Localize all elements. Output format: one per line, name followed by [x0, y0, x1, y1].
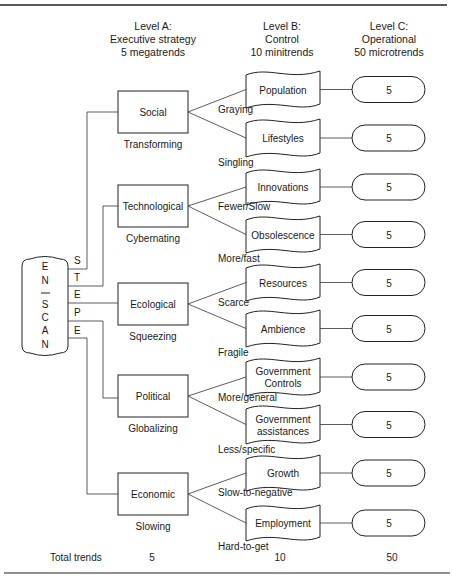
minitrend-label: Fragile	[218, 347, 249, 358]
minitrend-label: More/general	[218, 392, 277, 403]
microtrend-count: 5	[386, 518, 392, 529]
svg-text:A: A	[42, 325, 49, 336]
megatrend-trend: Slowing	[135, 521, 170, 532]
svg-text:E: E	[42, 261, 49, 272]
header-level-b: Level B: Control 10 minitrends	[250, 20, 313, 58]
fan-line	[188, 494, 246, 523]
svg-text:E: E	[74, 325, 81, 336]
megatrend-name: Technological	[123, 201, 184, 212]
svg-text:E: E	[74, 289, 81, 300]
microtrend-count: 5	[386, 468, 392, 479]
svg-text:S: S	[42, 299, 49, 310]
microtrend-count: 5	[386, 420, 392, 431]
svg-text:10: 10	[274, 552, 286, 563]
header-level-a: Level A: Executive strategy 5 megatrends	[110, 20, 197, 58]
svg-text:P: P	[74, 307, 81, 318]
megatrend-trend: Globalizing	[128, 423, 177, 434]
enscan-connectors	[68, 112, 118, 494]
minitrend-name: Innovations	[257, 182, 308, 193]
minitrend-label: More/fast	[218, 253, 260, 264]
megatrend-name: Economic	[131, 489, 175, 500]
svg-text:S: S	[74, 255, 81, 266]
megatrend-ecological: EcologicalSqueezingResourcesScarce5Ambie…	[118, 264, 425, 358]
enscan-node: E N S C A N	[22, 257, 68, 356]
fan-line	[188, 112, 246, 138]
megatrend-name: Social	[139, 107, 166, 118]
minitrend-name: Resources	[259, 278, 307, 289]
minitrend-name: Employment	[255, 518, 311, 529]
svg-text:C: C	[41, 312, 48, 323]
svg-text:Total trends: Total trends	[50, 552, 102, 563]
steep-labels: S T E P E	[74, 255, 81, 336]
microtrend-count: 5	[386, 230, 392, 241]
header-level-c: Level C: Operational 50 microtrends	[354, 20, 423, 58]
totals-row: Total trends 5 10 50	[50, 552, 398, 563]
megatrend-trend: Transforming	[124, 139, 183, 150]
connector-economic	[68, 338, 118, 494]
megatrend-technological: TechnologicalCybernatingInnovationsFewer…	[118, 169, 425, 264]
minitrend-label: Slow-to-negative	[218, 487, 293, 498]
megatrend-social: SocialTransformingPopulationGraying5Life…	[118, 71, 425, 168]
minitrend-label: Fewer/Slow	[218, 201, 271, 212]
minitrend-name: Lifestyles	[262, 133, 304, 144]
microtrend-count: 5	[386, 182, 392, 193]
svg-text:5: 5	[149, 552, 155, 563]
minitrend-name: Government	[255, 366, 310, 377]
enscan-diagram: Level A: Executive strategy 5 megatrends…	[0, 0, 452, 585]
minitrend-name: Population	[259, 85, 306, 96]
microtrend-count: 5	[386, 85, 392, 96]
svg-text:T: T	[74, 272, 80, 283]
minitrend-name: Obsolescence	[251, 230, 315, 241]
megatrend-name: Political	[136, 391, 170, 402]
minitrend-box	[246, 405, 320, 444]
minitrend-name: Government	[255, 414, 310, 425]
minitrend-label: Scarce	[218, 297, 250, 308]
svg-text:Operational: Operational	[362, 33, 416, 45]
svg-text:5 megatrends: 5 megatrends	[121, 46, 185, 58]
svg-text:N: N	[41, 275, 48, 286]
megatrend-political: PoliticalGlobalizingGovernmentControlsMo…	[118, 358, 425, 455]
minitrend-name-line2: Controls	[264, 378, 301, 389]
minitrend-label: Less/specific	[218, 444, 275, 455]
connector-social	[68, 112, 118, 269]
svg-text:50: 50	[386, 552, 398, 563]
svg-text:N: N	[41, 339, 48, 350]
minitrend-label: Graying	[218, 104, 253, 115]
microtrend-count: 5	[386, 133, 392, 144]
svg-text:Executive strategy: Executive strategy	[110, 33, 197, 45]
minitrend-name-line2: assistances	[257, 426, 309, 437]
svg-text:10 minitrends: 10 minitrends	[250, 46, 313, 58]
minitrend-box	[246, 358, 320, 396]
megatrend-name: Ecological	[130, 299, 176, 310]
minitrend-name: Growth	[267, 468, 299, 479]
megatrend-trend: Squeezing	[129, 331, 176, 342]
minitrend-label: Singling	[218, 157, 254, 168]
megatrend-economic: EconomicSlowingGrowthSlow-to-negative5Em…	[118, 455, 425, 552]
megatrend-trend: Cybernating	[126, 233, 180, 244]
microtrend-count: 5	[386, 324, 392, 335]
minitrend-label: Hard-to-get	[218, 541, 269, 552]
microtrend-count: 5	[386, 372, 392, 383]
microtrend-count: 5	[386, 278, 392, 289]
minitrend-name: Ambience	[261, 324, 306, 335]
svg-text:Control: Control	[265, 33, 299, 45]
svg-text:Level A:: Level A:	[134, 20, 171, 32]
svg-text:Level C:: Level C:	[370, 20, 409, 32]
svg-text:Level B:: Level B:	[263, 20, 301, 32]
svg-text:50 microtrends: 50 microtrends	[354, 46, 423, 58]
